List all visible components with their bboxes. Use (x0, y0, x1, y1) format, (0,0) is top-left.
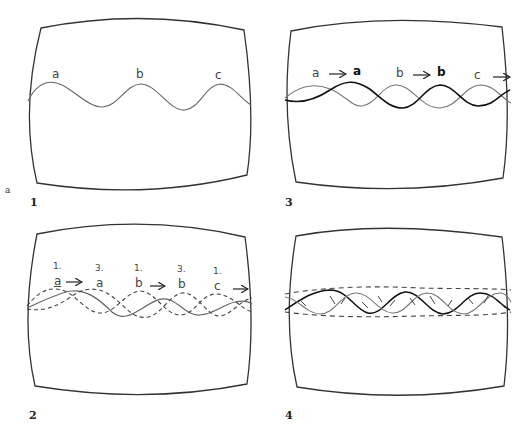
panel-1-label-c: c (215, 69, 222, 81)
panel-2-step-1b: 1. (134, 264, 143, 273)
panel-2-number: 2 (29, 409, 37, 422)
panel-2-label-a1: a (54, 275, 61, 287)
panel-3-label-b-start: b (396, 67, 404, 79)
panel-3-number: 3 (285, 196, 293, 209)
panel-3-label-c-start: c (474, 69, 481, 81)
panel-1-screen (28, 18, 251, 189)
panel-3-label-a-end: a (353, 65, 361, 77)
panel-4-screen (285, 228, 511, 395)
panel-3-label-a-start: a (312, 67, 319, 79)
panel-1-wave (28, 82, 251, 110)
panel-2-step-1a: 1. (53, 262, 62, 271)
panel-2-step-3b: 3. (177, 265, 186, 274)
panel-2-label-a3: a (96, 277, 103, 289)
panel-3-screen (285, 20, 511, 188)
figure-side-letter: a (5, 185, 10, 195)
panel-2-label-c1: c (214, 280, 221, 292)
panel-2-label-b1: b (135, 277, 143, 289)
panel-4-number: 4 (285, 409, 293, 422)
wave-diagram-figure: a 1 3 2 4 a b c a a b b c 1. 3. 1. 3. 1.… (0, 0, 522, 431)
panel-2-step-1c: 1. (213, 267, 222, 276)
panel-2-step-3a: 3. (95, 264, 104, 273)
panel-2-wave-solid (27, 291, 252, 316)
panel-3-label-b-end: b (437, 66, 446, 78)
panel-1-number: 1 (30, 196, 38, 209)
panel-1-label-a: a (52, 68, 59, 80)
panel-4-wave-bold (285, 290, 510, 314)
panel-4-wave-thin (285, 293, 511, 314)
panel-2-label-b3: b (178, 278, 186, 290)
panel-2-screen (27, 224, 252, 394)
panel-4-dashed-diagonals (300, 296, 505, 308)
motion-arrows (66, 74, 510, 289)
panel-1-label-b: b (136, 68, 144, 80)
